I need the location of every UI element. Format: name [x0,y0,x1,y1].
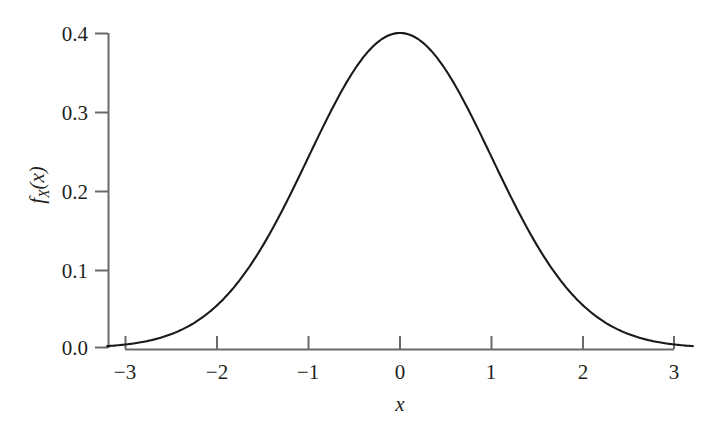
normal-pdf-chart: 0.4 0.3 0.2 0.1 0.0 fX(x) −3 −2 −1 0 1 2… [0,0,719,422]
y-tick-label-1: 0.3 [62,101,88,125]
x-tick-label-0: −3 [114,360,136,384]
x-tick-label-1: −2 [206,360,228,384]
y-tick-label-3: 0.1 [62,259,88,283]
y-axis-title: fX(x) [25,166,52,204]
y-tick-label-0: 0.4 [62,22,89,46]
x-tick-label-5: 2 [578,360,589,384]
y-axis-title-text: fX(x) [25,166,52,204]
x-tick-label-3: 0 [395,360,406,384]
y-tick-label-2: 0.2 [62,180,88,204]
y-axis-title-arg: (x) [25,166,49,189]
y-axis-title-subscript: X [37,189,52,199]
x-axis-title: x [394,392,405,416]
x-tick-label-4: 1 [486,360,497,384]
figure-container: 0.4 0.3 0.2 0.1 0.0 fX(x) −3 −2 −1 0 1 2… [0,0,719,422]
x-tick-label-6: 3 [669,360,680,384]
x-tick-label-2: −1 [297,360,319,384]
y-tick-label-4: 0.0 [62,336,88,360]
